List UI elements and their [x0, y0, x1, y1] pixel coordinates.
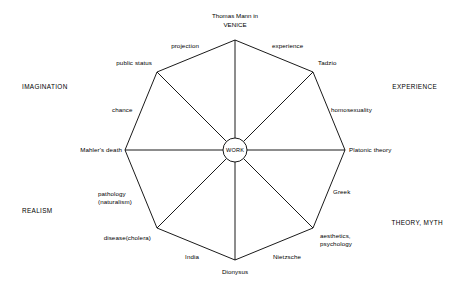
edge-label-experience: experience: [272, 42, 303, 50]
vertex-label-disease-cholera: disease(cholera): [104, 234, 151, 242]
spoke-bottom-right: [244, 159, 314, 229]
spoke-top-left: [157, 72, 227, 142]
edge-label-greek: Greek: [333, 188, 350, 196]
diagram-canvas: WORK Thomas Mann in VENICE Tadzio Platon…: [0, 0, 457, 289]
quadrant-label-realism: REALISM: [22, 207, 53, 214]
vertex-label-public-status: public status: [116, 59, 152, 67]
edge-label-pathology-naturalism: pathology (naturalism): [98, 190, 132, 206]
diagram-title: Thomas Mann in VENICE: [212, 12, 258, 29]
quadrant-label-theory-myth: THEORY, MYTH: [391, 219, 443, 226]
vertex-label-tadzio: Tadzio: [318, 59, 336, 67]
edge-label-india: India: [185, 253, 199, 261]
vertex-label-dionysus: Dionysus: [222, 268, 248, 276]
diagram-title-line2: VENICE: [212, 21, 258, 30]
vertex-label-aesthetics-line1: aesthetics,: [320, 232, 352, 240]
edge-label-pathology-line2: (naturalism): [98, 198, 132, 206]
edge-label-pathology-line1: pathology: [98, 190, 132, 198]
vertex-label-aesthetics-psychology: aesthetics, psychology: [320, 232, 352, 248]
spoke-bottom-left: [157, 159, 227, 229]
vertex-label-platonic-theory: Platonic theory: [349, 146, 391, 154]
edge-label-homosexuality: homosexuality: [331, 106, 372, 114]
vertex-label-mahlers-death: Mahler's death: [80, 146, 122, 154]
edge-label-chance: chance: [112, 106, 133, 114]
diagram-title-line1: Thomas Mann in: [212, 12, 258, 21]
edge-label-nietzsche: Nietzsche: [273, 253, 301, 261]
quadrant-label-experience: EXPERIENCE: [392, 83, 437, 90]
quadrant-label-imagination: IMAGINATION: [22, 83, 68, 90]
spoke-top-right: [244, 72, 314, 142]
octagon-diagram-graphic: [0, 0, 457, 289]
vertex-label-aesthetics-line2: psychology: [320, 240, 352, 248]
work-hub-label: WORK: [226, 147, 244, 153]
edge-label-projection: projection: [171, 42, 199, 50]
